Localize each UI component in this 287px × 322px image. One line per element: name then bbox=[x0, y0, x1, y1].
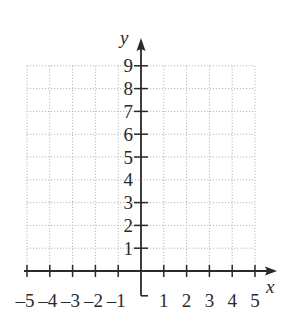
x-tick-label: 5 bbox=[250, 290, 260, 311]
x-tick-label: 4 bbox=[227, 290, 237, 311]
coordinate-plane: –5–4–3–2–112345123456789 x y bbox=[0, 0, 287, 322]
x-tick-label: –2 bbox=[83, 290, 103, 311]
tick-labels: –5–4–3–2–112345123456789 bbox=[15, 55, 260, 311]
x-axis-label: x bbox=[265, 276, 275, 297]
y-tick-label: 1 bbox=[124, 238, 134, 259]
y-tick-label: 5 bbox=[124, 147, 134, 168]
x-tick-label: –1 bbox=[106, 290, 126, 311]
y-tick-label: 8 bbox=[124, 78, 134, 99]
y-tick-label: 9 bbox=[124, 55, 134, 76]
y-tick-label: 7 bbox=[124, 101, 134, 122]
y-axis-label: y bbox=[118, 27, 129, 48]
x-tick-label: 1 bbox=[159, 290, 169, 311]
x-tick-label: –5 bbox=[15, 290, 35, 311]
y-tick-label: 2 bbox=[124, 215, 134, 236]
x-tick-label: –4 bbox=[37, 290, 58, 311]
y-tick-label: 3 bbox=[124, 192, 134, 213]
axes bbox=[24, 38, 277, 296]
x-tick-label: 3 bbox=[205, 290, 215, 311]
x-tick-label: 2 bbox=[182, 290, 192, 311]
y-tick-label: 4 bbox=[124, 169, 134, 190]
x-tick-label: –3 bbox=[60, 290, 80, 311]
y-tick-label: 6 bbox=[124, 124, 134, 145]
